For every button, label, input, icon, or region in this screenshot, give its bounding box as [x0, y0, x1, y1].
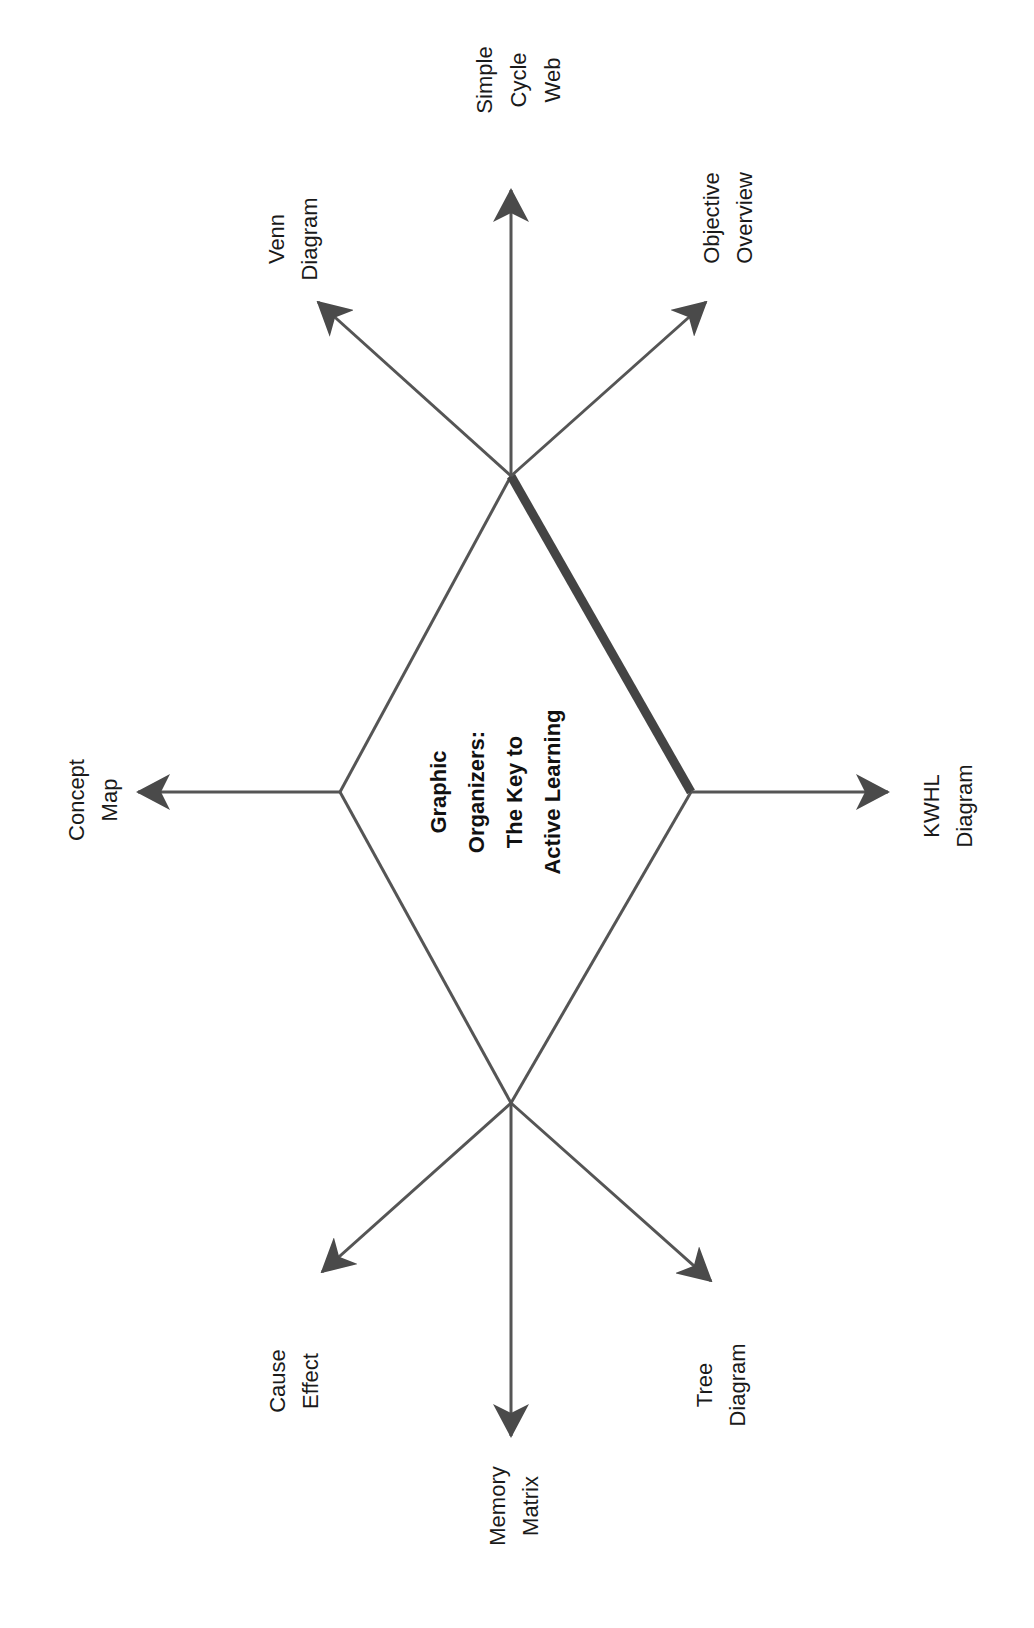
label-line: Effect	[298, 1353, 323, 1409]
center-title-line-3: The Key to	[502, 736, 527, 848]
label-line: Map	[97, 779, 122, 822]
center-title-line-1: Graphic	[426, 750, 451, 833]
label-concept-map: Concept Map	[64, 759, 122, 841]
center-title-line-2: Organizers:	[464, 731, 489, 853]
center-title: Graphic Organizers: The Key to Active Le…	[426, 709, 565, 874]
label-line: KWHL	[919, 774, 944, 838]
label-venn-diagram: Venn Diagram	[264, 197, 322, 280]
label-line: Diagram	[725, 1343, 750, 1426]
label-tree-diagram: Tree Diagram	[692, 1343, 750, 1426]
label-line: Diagram	[297, 197, 322, 280]
label-line: Objective	[699, 172, 724, 264]
label-line: Web	[540, 58, 565, 103]
arrow-venn-diagram	[318, 302, 511, 476]
label-memory-matrix: Memory Matrix	[485, 1466, 543, 1545]
label-line: Diagram	[952, 764, 977, 847]
label-simple-cycle-web: Simple Cycle Web	[472, 46, 565, 113]
label-line: Concept	[64, 759, 89, 841]
arrow-cause-effect	[322, 1103, 511, 1272]
label-objective-overview: Objective Overview	[699, 172, 757, 264]
thick-edge	[511, 476, 691, 792]
label-cause-effect: Cause Effect	[265, 1349, 323, 1413]
label-kwhl-diagram: KWHL Diagram	[919, 764, 977, 847]
arrow-objective-overview	[511, 302, 706, 476]
label-line: Cycle	[506, 52, 531, 107]
label-line: Venn	[264, 214, 289, 264]
label-line: Cause	[265, 1349, 290, 1413]
arrow-tree-diagram	[511, 1103, 711, 1281]
label-line: Matrix	[518, 1476, 543, 1536]
label-line: Memory	[485, 1466, 510, 1545]
label-line: Overview	[732, 172, 757, 264]
label-line: Tree	[692, 1363, 717, 1407]
center-title-line-4: Active Learning	[540, 709, 565, 874]
label-line: Simple	[472, 46, 497, 113]
graphic-organizers-diagram: Graphic Organizers: The Key to Active Le…	[0, 0, 1034, 1628]
